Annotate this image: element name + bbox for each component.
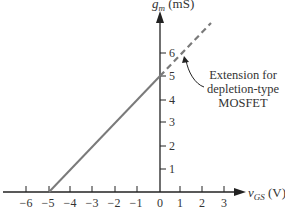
svg-text:6: 6 xyxy=(169,46,175,60)
svg-text:3: 3 xyxy=(169,115,175,129)
svg-text:−1: −1 xyxy=(130,196,143,210)
annotation-text: Extension for depletion-type MOSFET xyxy=(207,68,280,110)
svg-text:MOSFET: MOSFET xyxy=(218,96,268,110)
gm-vs-vgs-chart: −6 −5 −4 −3 −2 −1 0 1 2 3 1 2 3 4 5 6 gm… xyxy=(0,0,285,211)
svg-text:−6: −6 xyxy=(20,196,33,210)
svg-text:depletion-type: depletion-type xyxy=(207,82,280,96)
gm-solid-line xyxy=(49,76,160,192)
x-axis-arrow-icon xyxy=(234,188,246,196)
y-ticks xyxy=(160,53,166,169)
svg-text:2: 2 xyxy=(199,196,205,210)
x-tick-labels: −6 −5 −4 −3 −2 −1 0 1 2 3 xyxy=(20,196,227,210)
annotation-arrow xyxy=(186,60,204,87)
x-axis-label: vGS (V) xyxy=(248,185,285,202)
svg-text:1: 1 xyxy=(177,196,183,210)
svg-text:1: 1 xyxy=(169,162,175,176)
y-axis-label: gm (mS) xyxy=(152,0,194,13)
svg-text:−4: −4 xyxy=(64,196,77,210)
svg-text:5: 5 xyxy=(169,69,175,83)
svg-text:3: 3 xyxy=(221,196,227,210)
gm-dashed-extension xyxy=(160,23,211,76)
svg-text:4: 4 xyxy=(169,93,175,107)
svg-text:2: 2 xyxy=(169,139,175,153)
svg-text:−5: −5 xyxy=(42,196,55,210)
x-ticks xyxy=(26,186,224,192)
svg-text:Extension for: Extension for xyxy=(209,68,278,82)
svg-text:−2: −2 xyxy=(108,196,121,210)
svg-text:0: 0 xyxy=(157,196,163,210)
svg-text:−3: −3 xyxy=(86,196,99,210)
annotation-arrowhead-icon xyxy=(182,56,189,63)
